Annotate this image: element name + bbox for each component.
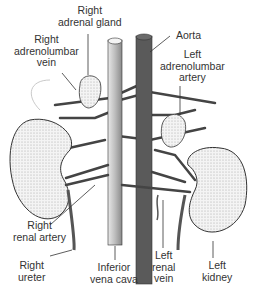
label-right-ureter: Right ureter	[18, 260, 45, 283]
nerve-curve	[31, 80, 50, 110]
right-ureter	[68, 190, 74, 250]
label-right-renal-artery: Right renal artery	[13, 220, 66, 243]
label-aorta: Aorta	[176, 30, 201, 42]
label-left-renal-vein: Left renal vein	[152, 250, 175, 285]
left-kidney	[188, 147, 247, 232]
right-kidney	[10, 119, 72, 219]
label-left-adrenolumbar-artery: Left adrenolumbar artery	[160, 49, 225, 84]
aorta	[136, 36, 152, 284]
label-inferior-vena-cava: Inferior vena cava	[90, 262, 138, 285]
renal-vessels	[66, 165, 190, 192]
left-ureter	[178, 195, 185, 250]
label-right-adrenal-gland: Right adrenal gland	[58, 5, 122, 28]
left-adrenal-gland	[161, 114, 185, 147]
gonadal-vessel	[157, 195, 158, 220]
aorta-top	[136, 34, 152, 40]
label-right-adrenolumbar-vein: Right adrenolumbar vein	[14, 34, 79, 69]
ivc-top	[108, 38, 122, 44]
right-adrenal-gland	[79, 76, 101, 108]
inferior-vena-cava	[108, 40, 122, 245]
label-left-kidney: Left kidney	[202, 260, 232, 283]
